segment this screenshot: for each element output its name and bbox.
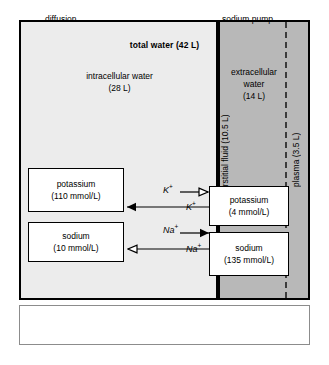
- extracellular-water-label: extracellular water (14 L): [221, 66, 287, 102]
- interstitial-fluid-volume: (10.5 L): [220, 114, 230, 143]
- potassium-extracellular-box: potassium (4 mmol/L): [209, 186, 289, 226]
- sodium-intracellular-box: sodium (10 mmol/L): [28, 222, 124, 262]
- potassium-efflux-ion-tag: K+: [163, 183, 173, 195]
- extracellular-water-name: extracellular water: [221, 66, 287, 90]
- intracellular-water-volume: (28 L): [21, 82, 218, 94]
- intracellular-water-name: intracellular water: [21, 70, 218, 82]
- total-water-label: total water (42 L): [21, 40, 308, 50]
- sodium-extracellular-name: sodium: [235, 242, 262, 254]
- legend-diffusion-label: diffusion: [45, 14, 77, 24]
- sodium-efflux-ion-tag: Na+: [163, 223, 178, 235]
- potassium-intracellular-name: potassium: [57, 178, 96, 190]
- plasma-volume: (3.5 L): [291, 133, 301, 158]
- sodium-influx-ion-tag: Na+: [186, 242, 201, 254]
- body-water-compartments-diagram: total water (42 L) intracellular water (…: [0, 0, 329, 365]
- potassium-intracellular-concentration: (110 mmol/L): [51, 190, 100, 202]
- legend-sodium-pump-label: sodium pump: [222, 14, 273, 24]
- sodium-extracellular-box: sodium (135 mmol/L): [209, 232, 289, 276]
- sodium-extracellular-concentration: (135 mmol/L): [224, 254, 274, 266]
- sodium-intracellular-concentration: (10 mmol/L): [53, 242, 98, 254]
- potassium-extracellular-name: potassium: [230, 194, 269, 206]
- potassium-extracellular-concentration: (4 mmol/L): [229, 206, 270, 218]
- intracellular-water-label: intracellular water (28 L): [21, 70, 218, 94]
- potassium-intracellular-box: potassium (110 mmol/L): [28, 168, 124, 212]
- extracellular-water-volume: (14 L): [221, 90, 287, 102]
- legend-frame: [19, 305, 310, 345]
- sodium-intracellular-name: sodium: [62, 230, 89, 242]
- plasma-label: plasma (3.5 L): [291, 122, 302, 198]
- potassium-influx-ion-tag: K+: [186, 200, 196, 212]
- plasma-name: plasma: [291, 160, 301, 187]
